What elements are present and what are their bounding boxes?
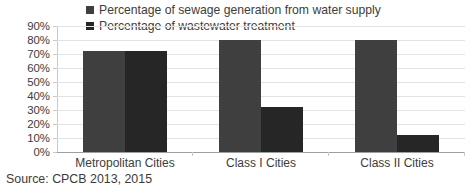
bar-chart: Percentage of sewage generation from wat… <box>0 0 474 193</box>
y-axis-tick-label: 0% <box>34 146 50 158</box>
source-caption: Source: CPCB 2013, 2015 <box>6 172 152 186</box>
x-axis-category-label: Metropolitan Cities <box>57 156 193 170</box>
x-axis-category-label: Class I Cities <box>193 156 329 170</box>
bar-series-1[interactable] <box>219 40 261 152</box>
y-axis-tick-label: 50% <box>27 76 50 88</box>
legend-square-marker-series-1 <box>86 6 94 14</box>
legend-label-series-1: Percentage of sewage generation from wat… <box>99 3 381 17</box>
bar-groups <box>57 26 465 152</box>
bar-group <box>57 26 193 152</box>
bar-group <box>193 26 329 152</box>
bar-pair <box>219 26 303 152</box>
bar-pair <box>355 26 439 152</box>
y-axis-tick-label: 10% <box>27 132 50 144</box>
y-axis-tick-label: 60% <box>27 62 50 74</box>
y-axis-tick-label: 20% <box>27 118 50 130</box>
x-axis-category-label: Class II Cities <box>329 156 465 170</box>
bar-series-2[interactable] <box>397 135 439 152</box>
y-axis-tick-label: 30% <box>27 104 50 116</box>
bar-series-1[interactable] <box>83 51 125 152</box>
bar-series-1[interactable] <box>355 40 397 152</box>
y-axis-tick-label: 80% <box>27 34 50 46</box>
legend-item-sewage-generation: Percentage of sewage generation from wat… <box>86 2 381 17</box>
y-axis-tick-label: 90% <box>27 20 50 32</box>
plot-area: 90%80%70%60%50%40%30%20%10%0% <box>57 26 465 152</box>
bar-series-2[interactable] <box>125 51 167 152</box>
x-axis-labels: Metropolitan CitiesClass I CitiesClass I… <box>57 156 465 170</box>
bar-series-2[interactable] <box>261 107 303 152</box>
x-axis-line <box>57 152 465 153</box>
y-axis-tick-label: 70% <box>27 48 50 60</box>
y-axis-tick <box>53 152 57 153</box>
bar-pair <box>83 26 167 152</box>
y-axis-tick-label: 40% <box>27 90 50 102</box>
bar-group <box>329 26 465 152</box>
